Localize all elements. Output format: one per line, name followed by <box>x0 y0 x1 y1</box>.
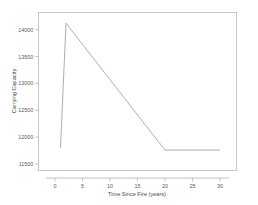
chart-figure: 115001200012500130001350014000 051015202… <box>0 0 258 205</box>
y-tick-label: 12500 <box>18 107 33 113</box>
x-tick-label: 20 <box>162 183 168 189</box>
y-tick-label: 14000 <box>18 27 33 33</box>
x-tick-label: 5 <box>81 183 84 189</box>
line-chart: 115001200012500130001350014000 051015202… <box>0 0 258 205</box>
y-tick-label: 12000 <box>18 134 33 140</box>
y-tick-label: 11500 <box>19 161 34 167</box>
x-axis-title: Time Since Fire (years) <box>108 191 166 197</box>
y-axis-title: Carrying Capacity <box>11 69 17 114</box>
x-tick-label: 10 <box>107 183 113 189</box>
y-tick-label: 13000 <box>18 80 33 86</box>
y-tick-label: 13500 <box>18 54 33 60</box>
x-tick-label: 30 <box>217 183 223 189</box>
x-tick-label: 25 <box>190 183 196 189</box>
x-tick-label: 15 <box>135 183 141 189</box>
x-tick-label: 0 <box>54 183 57 189</box>
